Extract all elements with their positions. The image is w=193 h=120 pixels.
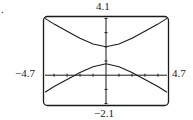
axes <box>45 18 167 103</box>
graph-screen <box>0 0 193 120</box>
